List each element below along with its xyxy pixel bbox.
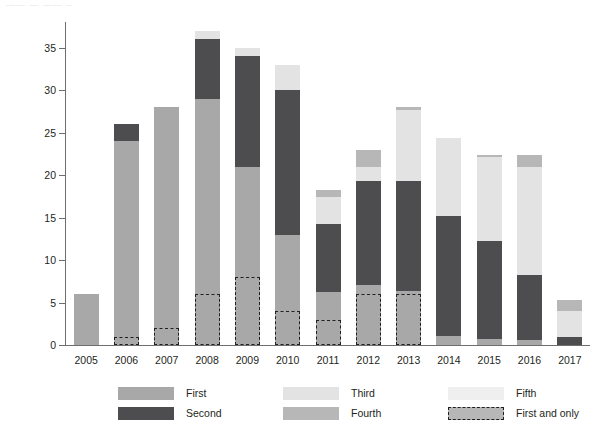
y-tick-mark bbox=[59, 345, 66, 346]
bar-stack[interactable] bbox=[436, 22, 461, 345]
stacked-bar-chart-figure: —— — —— —— Number of assessments 0510152… bbox=[0, 0, 608, 429]
x-tick-label: 2015 bbox=[478, 354, 501, 366]
bar-group[interactable]: 2017 bbox=[557, 22, 582, 345]
y-tick-mark bbox=[59, 218, 66, 219]
bar-stack[interactable] bbox=[316, 22, 341, 345]
bar-segment-first[interactable] bbox=[517, 340, 542, 345]
bar-stack[interactable] bbox=[356, 22, 381, 345]
legend-label: First and only bbox=[516, 406, 579, 421]
y-tick-label: 15 bbox=[44, 212, 56, 224]
bar-stack[interactable] bbox=[114, 22, 139, 345]
first-and-only-overlay[interactable] bbox=[235, 277, 260, 345]
bar-segment-fourth[interactable] bbox=[517, 155, 542, 166]
bar-segment-third[interactable] bbox=[436, 138, 461, 215]
legend-label: Fifth bbox=[516, 386, 536, 401]
bar-group[interactable]: 2005 bbox=[74, 22, 99, 345]
x-tick-label: 2010 bbox=[276, 354, 299, 366]
bar-segment-third[interactable] bbox=[356, 167, 381, 181]
chart-legend: FirstSecondThirdFourthFifthFirst and onl… bbox=[118, 386, 588, 424]
x-tick-label: 2005 bbox=[74, 354, 97, 366]
bar-segment-third[interactable] bbox=[195, 31, 220, 40]
y-tick-mark bbox=[59, 48, 66, 49]
bar-segment-second[interactable] bbox=[517, 275, 542, 340]
bar-segment-second[interactable] bbox=[557, 337, 582, 346]
bar-group[interactable]: 2013 bbox=[396, 22, 421, 345]
bar-segment-second[interactable] bbox=[477, 241, 502, 339]
bar-segment-first[interactable] bbox=[436, 336, 461, 345]
plot-area: 05101520253035 2005200620072008200920102… bbox=[66, 22, 590, 345]
bar-segment-first[interactable] bbox=[154, 107, 179, 345]
y-tick-mark bbox=[59, 303, 66, 304]
bar-segment-third[interactable] bbox=[275, 65, 300, 91]
bar-segment-third[interactable] bbox=[477, 157, 502, 241]
x-tick-label: 2009 bbox=[236, 354, 259, 366]
legend-swatch bbox=[283, 387, 339, 400]
bar-stack[interactable] bbox=[477, 22, 502, 345]
bar-stack[interactable] bbox=[235, 22, 260, 345]
bar-group[interactable]: 2015 bbox=[477, 22, 502, 345]
bar-segment-third[interactable] bbox=[396, 110, 421, 181]
bar-stack[interactable] bbox=[275, 22, 300, 345]
bar-segment-fourth[interactable] bbox=[396, 107, 421, 110]
bar-segment-fourth[interactable] bbox=[356, 150, 381, 167]
bar-stack[interactable] bbox=[195, 22, 220, 345]
bar-segment-first[interactable] bbox=[74, 294, 99, 345]
y-tick-label: 30 bbox=[44, 84, 56, 96]
first-and-only-overlay[interactable] bbox=[356, 294, 381, 345]
bar-segment-third[interactable] bbox=[316, 197, 341, 224]
bar-stack[interactable] bbox=[396, 22, 421, 345]
bar-segment-third[interactable] bbox=[235, 48, 260, 57]
bar-segment-second[interactable] bbox=[275, 90, 300, 235]
x-tick-label: 2012 bbox=[357, 354, 380, 366]
bar-stack[interactable] bbox=[517, 22, 542, 345]
x-tick-label: 2017 bbox=[558, 354, 581, 366]
legend-label: Fourth bbox=[351, 406, 381, 421]
first-and-only-overlay[interactable] bbox=[114, 337, 139, 346]
first-and-only-overlay[interactable] bbox=[316, 320, 341, 346]
bar-group[interactable]: 2009 bbox=[235, 22, 260, 345]
x-tick-label: 2013 bbox=[397, 354, 420, 366]
first-and-only-overlay[interactable] bbox=[154, 328, 179, 345]
bar-segment-fourth[interactable] bbox=[557, 300, 582, 311]
bar-group[interactable]: 2014 bbox=[436, 22, 461, 345]
bar-segment-fourth[interactable] bbox=[477, 155, 502, 158]
y-tick-mark bbox=[59, 133, 66, 134]
legend-label: Third bbox=[351, 386, 375, 401]
bar-segment-first[interactable] bbox=[114, 141, 139, 345]
x-tick-label: 2011 bbox=[317, 354, 340, 366]
y-tick-label: 5 bbox=[50, 297, 56, 309]
y-tick-label: 35 bbox=[44, 42, 56, 54]
bar-segment-third[interactable] bbox=[557, 311, 582, 337]
bar-group[interactable]: 2007 bbox=[154, 22, 179, 345]
bar-segment-first[interactable] bbox=[477, 339, 502, 345]
bar-stack[interactable] bbox=[557, 22, 582, 345]
x-tick-label: 2016 bbox=[518, 354, 541, 366]
bar-stack[interactable] bbox=[154, 22, 179, 345]
top-edge-artifact: —— — —— —— bbox=[6, 1, 72, 10]
bar-segment-second[interactable] bbox=[356, 181, 381, 285]
bar-segment-third[interactable] bbox=[517, 167, 542, 276]
bar-group[interactable]: 2011 bbox=[316, 22, 341, 345]
bar-segment-second[interactable] bbox=[396, 181, 421, 292]
bar-group[interactable]: 2010 bbox=[275, 22, 300, 345]
bar-segment-second[interactable] bbox=[235, 56, 260, 167]
x-tick-label: 2014 bbox=[437, 354, 460, 366]
bar-stack[interactable] bbox=[74, 22, 99, 345]
bar-group[interactable]: 2006 bbox=[114, 22, 139, 345]
first-and-only-overlay[interactable] bbox=[396, 294, 421, 345]
bar-group[interactable]: 2016 bbox=[517, 22, 542, 345]
bar-segment-second[interactable] bbox=[436, 216, 461, 336]
bar-segment-fourth[interactable] bbox=[316, 190, 341, 197]
bar-segment-second[interactable] bbox=[316, 224, 341, 292]
bar-group[interactable]: 2012 bbox=[356, 22, 381, 345]
first-and-only-overlay[interactable] bbox=[195, 294, 220, 345]
bar-segment-second[interactable] bbox=[114, 124, 139, 141]
bar-segment-second[interactable] bbox=[195, 39, 220, 99]
first-and-only-overlay[interactable] bbox=[275, 311, 300, 345]
x-axis-line bbox=[66, 345, 590, 346]
legend-label: First bbox=[186, 386, 206, 401]
legend-swatch bbox=[448, 387, 504, 400]
bar-group[interactable]: 2008 bbox=[195, 22, 220, 345]
legend-swatch bbox=[118, 407, 174, 420]
y-tick-label: 20 bbox=[44, 169, 56, 181]
